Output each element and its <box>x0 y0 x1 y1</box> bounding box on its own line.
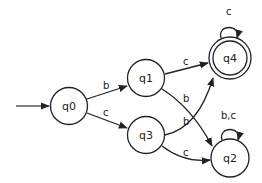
state-q2: q2 <box>211 139 249 177</box>
state-q4-accepting: q4 <box>209 37 251 79</box>
automaton-diagram: b c c b b c c b,c q0 q1 q3 <box>0 0 262 183</box>
edge-q1-q4: c <box>165 56 208 74</box>
edge-label: b <box>103 80 109 91</box>
state-q0: q0 <box>51 88 88 125</box>
state-label: q3 <box>139 129 153 142</box>
edge-q0-q1: b <box>87 80 127 99</box>
edge-q4-self: c <box>221 6 238 38</box>
edge-q0-q3: c <box>87 107 127 128</box>
edge-label: b <box>183 116 189 127</box>
edge-label: c <box>183 147 189 158</box>
edge-label: b,c <box>221 110 236 121</box>
state-label: q4 <box>223 52 237 65</box>
state-label: q2 <box>223 152 237 165</box>
edge-q3-q2: c <box>162 146 210 160</box>
edge-label: c <box>103 107 109 118</box>
edge-q3-q4: b <box>165 78 213 135</box>
state-q1: q1 <box>128 60 165 97</box>
state-label: q1 <box>139 72 153 85</box>
edge-label: c <box>183 56 189 67</box>
state-q3: q3 <box>128 117 165 154</box>
edge-q2-self: b,c <box>221 110 238 140</box>
state-label: q0 <box>62 100 76 113</box>
edge-label: c <box>226 6 232 17</box>
edge-label: b <box>183 93 189 104</box>
